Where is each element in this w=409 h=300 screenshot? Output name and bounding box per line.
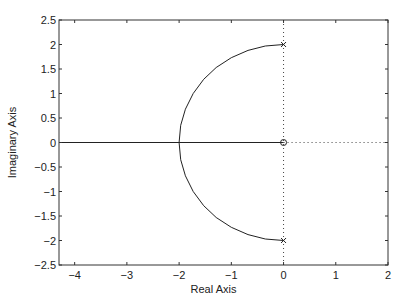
x-tick-label: 0 xyxy=(280,269,286,281)
y-tick-label: −1.5 xyxy=(34,210,56,222)
x-tick-label: −1 xyxy=(225,269,238,281)
y-tick-label: 2.5 xyxy=(41,14,56,26)
x-axis-title: Real Axis xyxy=(191,283,237,295)
upper-branch-line xyxy=(179,45,284,143)
lower-branch-line xyxy=(179,143,284,241)
x-tick-label: −4 xyxy=(68,269,81,281)
x-tick-label: −3 xyxy=(121,269,134,281)
reference-lines xyxy=(284,20,388,265)
y-tick-label: −0.5 xyxy=(34,161,56,173)
x-tick-label: 1 xyxy=(333,269,339,281)
y-axis-title: Imaginary Axis xyxy=(6,106,18,178)
y-tick-label: 2 xyxy=(50,39,56,51)
y-tick-label: 1.5 xyxy=(41,63,56,75)
x-tick-label: 2 xyxy=(385,269,391,281)
y-tick-label: 1 xyxy=(50,88,56,100)
y-tick-label: −1 xyxy=(43,186,56,198)
y-tick-label: −2.5 xyxy=(34,259,56,271)
locus-branches xyxy=(59,45,284,241)
x-tick-label: −2 xyxy=(173,269,186,281)
y-tick-label: 0 xyxy=(50,137,56,149)
y-tick-label: −2 xyxy=(43,235,56,247)
y-tick-label: 0.5 xyxy=(41,112,56,124)
root-locus-chart: −4−3−2−1012 2.521.510.50−0.5−1−1.5−2−2.5… xyxy=(0,0,409,300)
